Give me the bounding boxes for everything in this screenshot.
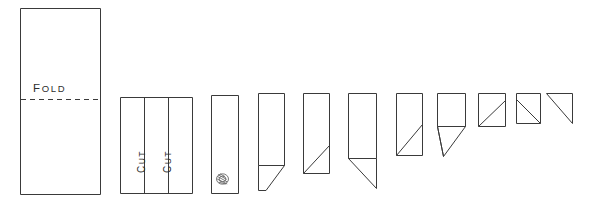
figure-square-with-triangular-flap — [438, 94, 466, 157]
cut-label-left-rest: UT — [137, 150, 147, 164]
figure-strip-with-internal-diagonal — [304, 94, 330, 174]
figure-final-triangle — [547, 94, 573, 124]
figure-narrow-strip-with-mark — [212, 96, 239, 194]
figure-short-rect-with-diagonal — [397, 94, 423, 156]
cut-label-right-capital: C — [162, 164, 173, 173]
folding-diagram: FOLD CUT CUT — [0, 0, 593, 204]
cut-label-right-rest: UT — [163, 150, 173, 164]
figure-folded-sheet-with-cut-lines — [121, 98, 193, 194]
cut-label-right: CUT — [162, 150, 173, 173]
cut-label-left-capital: C — [136, 164, 147, 173]
diagram-canvas — [0, 0, 593, 204]
figure-strip-with-long-flap — [349, 94, 377, 189]
fold-label-capital: F — [33, 82, 42, 94]
cut-label-left: CUT — [136, 150, 147, 173]
figure-strip-with-flap-down-left — [259, 94, 285, 191]
figure-sheet-with-fold-line — [21, 9, 101, 195]
fold-label: FOLD — [33, 82, 66, 94]
figure-small-square-with-diagonal — [517, 94, 541, 124]
figure-square-with-diagonal — [479, 94, 506, 127]
fold-label-rest: OLD — [42, 83, 67, 94]
